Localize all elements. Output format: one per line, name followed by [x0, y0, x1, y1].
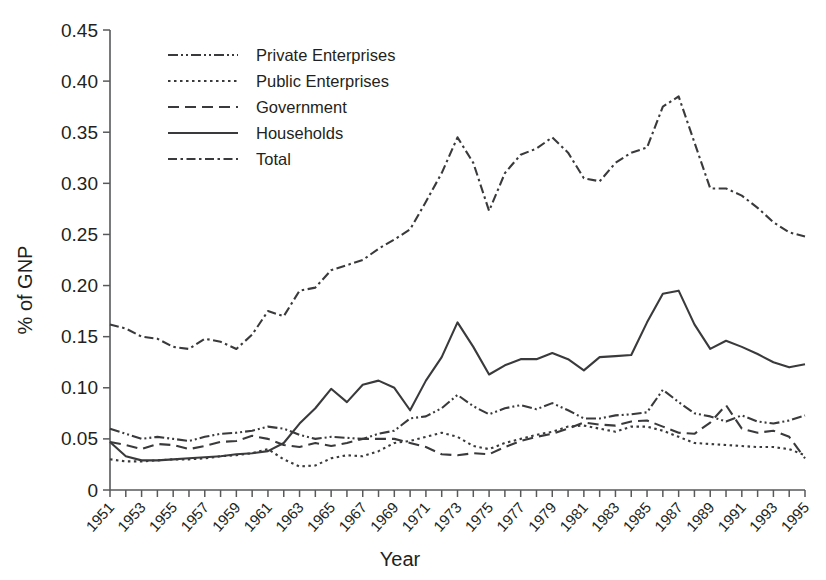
legend-label: Total	[256, 150, 291, 168]
x-tick-label: 1993	[746, 499, 781, 535]
x-tick-label: 1973	[430, 499, 465, 535]
x-axis-title: Year	[380, 548, 421, 570]
x-tick-label: 1953	[114, 499, 149, 535]
y-tick-label: 0.20	[61, 275, 98, 296]
y-tick-label: 0	[87, 480, 98, 501]
x-tick-label: 1951	[82, 499, 117, 535]
y-tick-label: 0.25	[61, 224, 98, 245]
x-tick-label: 1965	[303, 499, 338, 535]
chart-legend: Private EnterprisesPublic EnterprisesGov…	[168, 46, 395, 168]
y-axis-title: % of GNP	[14, 246, 36, 335]
x-tick-label: 1987	[651, 499, 686, 535]
series-layer	[110, 96, 805, 466]
y-tick-label: 0.45	[61, 20, 98, 41]
series-line	[110, 96, 805, 348]
x-tick-label: 1995	[777, 499, 812, 535]
x-tick-label: 1985	[619, 499, 654, 535]
series-line	[110, 426, 805, 467]
legend-label: Households	[256, 124, 343, 142]
y-tick-labels: 00.050.100.150.200.250.300.350.400.45	[61, 20, 110, 501]
x-tick-label: 1983	[588, 499, 623, 535]
x-tick-label: 1977	[493, 499, 528, 535]
x-tick-label: 1991	[714, 499, 749, 535]
legend-label: Private Enterprises	[256, 46, 395, 64]
legend-label: Government	[256, 98, 347, 116]
y-tick-label: 0.10	[61, 377, 98, 398]
x-tick-label: 1955	[145, 499, 180, 535]
x-tick-label: 1981	[556, 499, 591, 535]
x-tick-label: 1961	[240, 499, 275, 535]
y-tick-label: 0.35	[61, 122, 98, 143]
y-tick-label: 0.15	[61, 326, 98, 347]
x-tick-labels: 1951195319551957195919611963196519671969…	[82, 490, 812, 535]
axes	[110, 30, 805, 490]
x-tick-label: 1967	[335, 499, 370, 535]
legend-label: Public Enterprises	[256, 72, 389, 90]
chart-root: 00.050.100.150.200.250.300.350.400.45 19…	[0, 0, 826, 580]
series-line	[110, 405, 805, 458]
x-tick-label: 1957	[177, 499, 212, 535]
series-line	[110, 390, 805, 441]
line-chart: 00.050.100.150.200.250.300.350.400.45 19…	[0, 0, 826, 580]
y-tick-label: 0.30	[61, 173, 98, 194]
x-tick-label: 1969	[367, 499, 402, 535]
x-tick-label: 1979	[525, 499, 560, 535]
x-tick-label: 1963	[272, 499, 307, 535]
x-tick-label: 1975	[461, 499, 496, 535]
y-tick-label: 0.40	[61, 71, 98, 92]
x-tick-label: 1971	[398, 499, 433, 535]
x-tick-label: 1959	[209, 499, 244, 535]
x-tick-label: 1989	[682, 499, 717, 535]
y-tick-label: 0.05	[61, 428, 98, 449]
